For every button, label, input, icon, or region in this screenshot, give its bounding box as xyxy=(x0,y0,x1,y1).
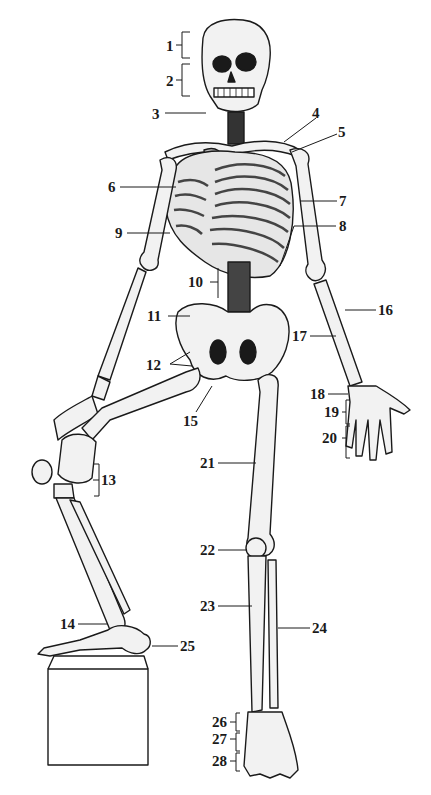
label-9: 9 xyxy=(115,226,123,241)
label-16: 16 xyxy=(378,303,393,318)
label-10: 10 xyxy=(188,275,203,290)
label-3: 3 xyxy=(152,107,160,122)
label-11: 11 xyxy=(147,309,161,324)
block xyxy=(48,669,148,765)
label-26: 26 xyxy=(212,715,227,730)
label-6: 6 xyxy=(108,180,116,195)
label-13: 13 xyxy=(101,473,116,488)
label-12: 12 xyxy=(146,358,161,373)
fibula-left xyxy=(268,560,278,708)
tibia-left xyxy=(248,556,266,712)
foot-right xyxy=(38,626,150,656)
label-18: 18 xyxy=(310,387,325,402)
forearm-left xyxy=(314,280,362,386)
label-24: 24 xyxy=(312,621,327,636)
humerus-left xyxy=(290,149,325,281)
femur-left xyxy=(247,375,278,556)
label-23: 23 xyxy=(200,599,215,614)
label-7: 7 xyxy=(339,194,347,209)
label-20: 20 xyxy=(322,431,337,446)
label-22: 22 xyxy=(200,543,215,558)
skeleton-diagram: 1 2 3 4 5 6 7 8 9 10 11 12 13 14 15 16 1… xyxy=(0,0,431,795)
hand-left xyxy=(346,386,410,460)
skeleton-illustration xyxy=(0,0,431,795)
label-8: 8 xyxy=(339,219,347,234)
label-15: 15 xyxy=(183,414,198,429)
label-5: 5 xyxy=(338,125,346,140)
label-19: 19 xyxy=(324,405,339,420)
label-14: 14 xyxy=(60,617,75,632)
pelvis xyxy=(176,304,289,381)
label-28: 28 xyxy=(212,754,227,769)
label-2: 2 xyxy=(166,74,174,89)
patella-left xyxy=(246,538,266,558)
foot-left xyxy=(244,712,298,778)
label-21: 21 xyxy=(200,456,215,471)
label-1: 1 xyxy=(166,39,174,54)
label-17: 17 xyxy=(292,329,307,344)
label-25: 25 xyxy=(180,639,195,654)
patella-right xyxy=(32,460,52,484)
label-4: 4 xyxy=(312,106,320,121)
forearm-right xyxy=(98,268,146,380)
tibia-right xyxy=(56,498,125,632)
label-27: 27 xyxy=(212,732,227,747)
